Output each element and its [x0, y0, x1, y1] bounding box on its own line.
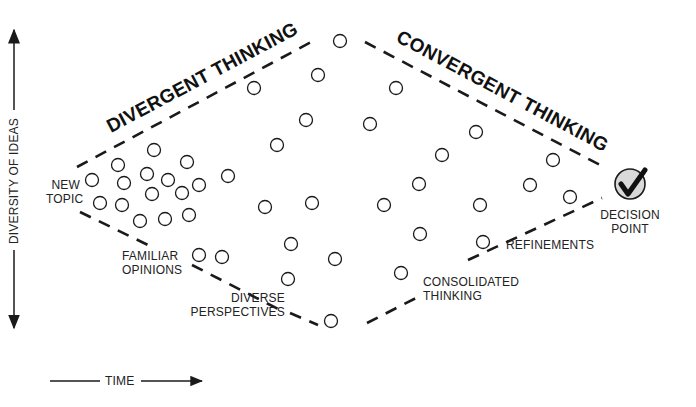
idea-circle: [329, 253, 342, 266]
idea-circle: [118, 177, 131, 190]
idea-circle: [524, 179, 537, 192]
x-axis-label: TIME: [105, 374, 134, 388]
idea-circle: [162, 174, 175, 187]
idea-circle: [564, 191, 577, 204]
idea-circle: [141, 168, 154, 181]
idea-circle: [216, 251, 229, 264]
diagram-canvas: [0, 0, 696, 407]
idea-circle: [477, 236, 490, 249]
idea-circle: [285, 238, 298, 251]
idea-circle: [176, 187, 189, 200]
y-axis-label: DIVERSITY OF IDEAS: [7, 117, 21, 245]
idea-circle: [259, 201, 272, 214]
diverse-perspectives-label: DIVERSE PERSPECTIVES: [187, 291, 285, 319]
idea-circle: [395, 267, 408, 280]
idea-circle: [364, 118, 377, 131]
idea-circle: [94, 197, 107, 210]
idea-circle: [334, 35, 347, 48]
consolidated-thinking-label: CONSOLIDATED THINKING: [423, 275, 519, 303]
new-topic-label: NEW TOPIC: [46, 178, 80, 206]
idea-circle: [148, 144, 161, 157]
idea-circle: [181, 156, 194, 169]
idea-circle: [282, 273, 295, 286]
idea-circle: [271, 139, 284, 152]
idea-circle: [193, 249, 206, 262]
idea-circle: [470, 126, 483, 139]
decision-point-label: DECISION POINT: [596, 208, 664, 236]
idea-circle: [248, 82, 261, 95]
idea-circle: [306, 197, 319, 210]
idea-circle: [86, 174, 99, 187]
idea-circle: [159, 213, 172, 226]
idea-circle: [134, 215, 147, 228]
idea-circle: [112, 159, 125, 172]
idea-circle: [222, 170, 235, 183]
idea-circle: [193, 179, 206, 192]
idea-circle: [474, 199, 487, 212]
idea-circle: [300, 114, 313, 127]
decision-point-icon: [615, 169, 645, 199]
idea-circle: [390, 82, 403, 95]
idea-circle: [413, 178, 426, 191]
idea-circle: [312, 69, 325, 82]
idea-circle: [436, 149, 449, 162]
idea-circle: [414, 228, 427, 241]
idea-circle: [547, 154, 560, 167]
idea-circle: [146, 188, 159, 201]
idea-circle: [378, 199, 391, 212]
familiar-opinions-label: FAMILIAR OPINIONS: [122, 249, 182, 277]
idea-circle: [116, 199, 129, 212]
refinements-label: REFINEMENTS: [506, 238, 594, 252]
idea-circle: [325, 315, 338, 328]
idea-circle: [183, 209, 196, 222]
